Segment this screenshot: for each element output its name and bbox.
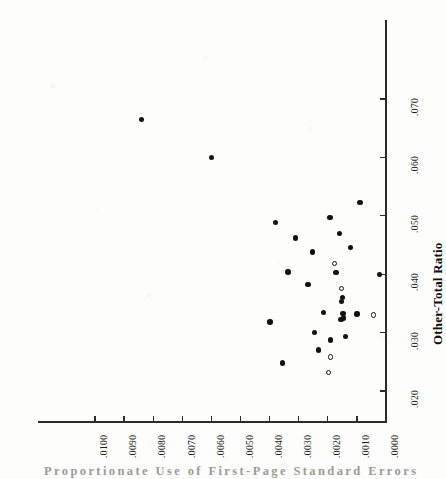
- x-axis-tick: [327, 416, 328, 421]
- x-axis-tick: [269, 416, 270, 421]
- x-axis-tick: [153, 416, 154, 421]
- x-axis-tick-label: .0060: [216, 435, 226, 458]
- data-point-filled: [328, 337, 333, 342]
- data-point-filled: [293, 235, 298, 240]
- data-point-filled: [280, 360, 285, 365]
- data-point-filled: [327, 215, 332, 220]
- x-axis-tick: [356, 416, 357, 421]
- x-axis-tick: [385, 416, 386, 421]
- x-axis-tick: [123, 416, 124, 421]
- y-axis-tick-label: .050: [410, 215, 420, 233]
- data-point-filled: [321, 310, 326, 315]
- data-point-filled: [377, 272, 382, 277]
- y-axis-tick: [380, 390, 385, 391]
- y-axis-tick: [380, 98, 385, 99]
- x-axis-tick: [94, 416, 95, 421]
- y-axis-tick: [380, 157, 385, 158]
- data-point-filled: [339, 299, 344, 304]
- y-axis-line: [385, 20, 387, 423]
- x-axis-tick: [211, 416, 212, 421]
- x-axis-tick-label: .0020: [332, 435, 342, 458]
- y-axis-title: Other-Total Ratio: [430, 243, 446, 345]
- x-axis-tick-label: .0000: [390, 435, 400, 458]
- data-point-filled: [343, 334, 348, 339]
- data-point-open: [371, 312, 376, 317]
- data-point-filled: [337, 231, 342, 236]
- data-point-filled: [348, 245, 353, 250]
- data-point-filled: [338, 317, 343, 322]
- y-axis-tick: [380, 215, 385, 216]
- data-point-open: [328, 354, 333, 359]
- data-point-filled: [310, 249, 315, 254]
- x-axis-tick-label: .0070: [187, 435, 197, 458]
- data-point-open: [326, 370, 331, 375]
- x-axis-tick: [298, 416, 299, 421]
- y-axis-tick-label: .020: [410, 390, 420, 408]
- x-axis-line: [38, 421, 387, 423]
- data-point-filled: [209, 155, 214, 160]
- x-axis-tick-label: .0050: [245, 435, 255, 458]
- x-axis-tick: [182, 416, 183, 421]
- x-axis-tick-label: .0090: [128, 435, 138, 458]
- y-axis-tick: [380, 332, 385, 333]
- x-axis-tick-label: .0040: [274, 435, 284, 458]
- data-point-filled: [305, 282, 310, 287]
- data-point-filled: [267, 319, 272, 324]
- data-point-filled: [357, 200, 362, 205]
- data-point-open: [339, 286, 344, 291]
- data-point-filled: [316, 347, 321, 352]
- data-point-filled: [139, 117, 144, 122]
- y-axis-tick-label: .030: [410, 331, 420, 349]
- data-point-filled: [285, 269, 290, 274]
- data-point-filled: [312, 330, 317, 335]
- x-axis-title: Proportionate Use of First-Page Standard…: [44, 464, 418, 479]
- data-point-open: [332, 261, 337, 266]
- data-point-filled: [273, 220, 278, 225]
- data-point-filled: [333, 270, 338, 275]
- x-axis-tick-label: .0030: [303, 435, 313, 458]
- y-axis-tick-label: .040: [410, 273, 420, 291]
- y-axis-tick-label: .070: [410, 98, 420, 116]
- y-axis-tick-label: .060: [410, 156, 420, 174]
- x-axis-tick-label: .0080: [157, 435, 167, 458]
- x-axis-tick-label: .0100: [99, 435, 109, 458]
- x-axis-tick-label: .0010: [361, 435, 371, 458]
- data-point-filled: [354, 311, 359, 316]
- x-axis-tick: [240, 416, 241, 421]
